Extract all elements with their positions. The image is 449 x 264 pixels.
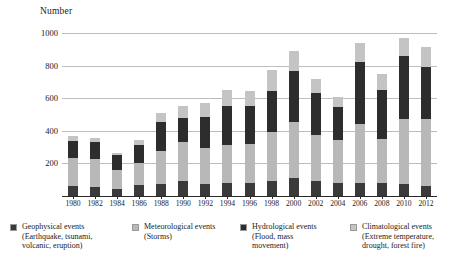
x-axis-tick-label: 1982 bbox=[87, 200, 102, 208]
bar-segment-meteorological bbox=[289, 122, 299, 178]
x-axis-tick-label: 2004 bbox=[330, 200, 345, 208]
x-axis-tick-label: 2006 bbox=[352, 200, 367, 208]
bar-segment-geophysical bbox=[112, 189, 122, 196]
x-axis-tick-label: 2008 bbox=[374, 200, 389, 208]
bar-segment-hydrological bbox=[245, 106, 255, 143]
bar-segment-meteorological bbox=[245, 144, 255, 183]
bar-stack bbox=[267, 70, 277, 196]
bar-segment-hydrological bbox=[421, 67, 431, 119]
bar-segment-climatological bbox=[245, 91, 255, 106]
x-axis-tick-label: 1990 bbox=[176, 200, 191, 208]
bar-segment-geophysical bbox=[134, 185, 144, 196]
bar-stack bbox=[421, 47, 431, 196]
legend-item[interactable]: Geophysical events (Earthquake, tsunami,… bbox=[10, 222, 128, 251]
bar-segment-geophysical bbox=[333, 183, 343, 196]
x-axis-tick-label: 1994 bbox=[220, 200, 235, 208]
bar-segment-hydrological bbox=[200, 117, 210, 149]
bar-segment-meteorological bbox=[333, 140, 343, 182]
legend-label: Hydrological events (Flood, mass movemen… bbox=[252, 222, 317, 251]
bar-segment-meteorological bbox=[178, 142, 188, 180]
x-axis-tick-label: 1980 bbox=[65, 200, 80, 208]
bar-series-container bbox=[62, 33, 437, 196]
bar-segment-geophysical bbox=[245, 183, 255, 196]
bar-segment-hydrological bbox=[178, 118, 188, 142]
bar-stack bbox=[222, 90, 232, 196]
legend-item[interactable]: Hydrological events (Flood, mass movemen… bbox=[240, 222, 346, 251]
bar-segment-meteorological bbox=[311, 135, 321, 181]
x-axis-tick-label: 2010 bbox=[396, 200, 411, 208]
bar-stack bbox=[377, 74, 387, 196]
bar-segment-meteorological bbox=[267, 132, 277, 181]
plot-area: 2004006008001000 bbox=[62, 33, 437, 196]
bar-segment-hydrological bbox=[156, 122, 166, 151]
bar-segment-climatological bbox=[289, 51, 299, 71]
bar-segment-geophysical bbox=[289, 178, 299, 196]
bar-stack bbox=[112, 153, 122, 196]
bar-segment-geophysical bbox=[200, 184, 210, 196]
legend-swatch-icon bbox=[350, 224, 357, 231]
bar-segment-climatological bbox=[399, 38, 409, 56]
bar-segment-hydrological bbox=[90, 142, 100, 158]
bar-segment-meteorological bbox=[355, 124, 365, 183]
y-axis-tick-label: 200 bbox=[45, 159, 58, 168]
bar-segment-climatological bbox=[267, 70, 277, 91]
legend-item[interactable]: Meteorological events (Storms) bbox=[132, 222, 242, 241]
bar-segment-geophysical bbox=[156, 184, 166, 196]
bar-segment-meteorological bbox=[134, 163, 144, 185]
bar-segment-meteorological bbox=[200, 148, 210, 184]
bar-segment-meteorological bbox=[377, 139, 387, 183]
bar-segment-meteorological bbox=[68, 158, 78, 187]
bar-stack bbox=[134, 140, 144, 196]
bar-segment-meteorological bbox=[112, 170, 122, 189]
bar-segment-hydrological bbox=[311, 93, 321, 135]
y-axis-tick-label: 800 bbox=[45, 61, 58, 70]
bar-stack bbox=[355, 43, 365, 196]
bar-segment-geophysical bbox=[90, 187, 100, 196]
bar-segment-geophysical bbox=[68, 186, 78, 196]
legend-swatch-icon bbox=[10, 224, 17, 231]
y-axis-tick-label: 600 bbox=[45, 94, 58, 103]
bar-segment-geophysical bbox=[421, 186, 431, 196]
bar-segment-hydrological bbox=[134, 145, 144, 163]
x-axis-tick-label: 1992 bbox=[198, 200, 213, 208]
x-axis-tick-label: 1986 bbox=[132, 200, 147, 208]
bar-segment-geophysical bbox=[355, 183, 365, 196]
bar-segment-climatological bbox=[68, 136, 78, 142]
bar-segment-climatological bbox=[421, 47, 431, 67]
stacked-bar-chart: Number 2004006008001000 1980198219841986… bbox=[0, 0, 449, 264]
x-axis-tick-label: 1996 bbox=[242, 200, 257, 208]
legend-swatch-icon bbox=[240, 224, 247, 231]
bar-segment-meteorological bbox=[90, 159, 100, 187]
legend-label: Geophysical events (Earthquake, tsunami,… bbox=[22, 222, 92, 251]
bar-segment-climatological bbox=[178, 106, 188, 118]
x-axis-tick-label: 2002 bbox=[308, 200, 323, 208]
bar-stack bbox=[333, 97, 343, 196]
bar-segment-geophysical bbox=[178, 181, 188, 196]
bar-segment-meteorological bbox=[421, 119, 431, 186]
y-axis-tick-label: 400 bbox=[45, 127, 58, 136]
bar-segment-climatological bbox=[134, 140, 144, 145]
bar-segment-climatological bbox=[112, 153, 122, 155]
bar-segment-hydrological bbox=[377, 90, 387, 140]
bar-segment-hydrological bbox=[222, 106, 232, 145]
bar-stack bbox=[178, 106, 188, 196]
bar-segment-geophysical bbox=[311, 181, 321, 196]
x-axis-tick-label: 1998 bbox=[264, 200, 279, 208]
bar-stack bbox=[289, 51, 299, 196]
bar-segment-geophysical bbox=[399, 184, 409, 196]
bar-stack bbox=[68, 136, 78, 196]
bar-segment-meteorological bbox=[399, 119, 409, 183]
bar-segment-climatological bbox=[377, 74, 387, 89]
bar-segment-climatological bbox=[333, 97, 343, 107]
legend-item[interactable]: Climatological events (Extreme temperatu… bbox=[350, 222, 449, 251]
bar-stack bbox=[200, 103, 210, 196]
bar-segment-geophysical bbox=[222, 183, 232, 196]
bar-stack bbox=[245, 91, 255, 196]
x-axis-tick-label: 1988 bbox=[154, 200, 169, 208]
bar-segment-hydrological bbox=[333, 107, 343, 140]
bar-segment-hydrological bbox=[68, 141, 78, 157]
bar-segment-climatological bbox=[222, 90, 232, 106]
x-axis-tick-label: 1984 bbox=[110, 200, 125, 208]
bar-segment-hydrological bbox=[112, 155, 122, 170]
legend-swatch-icon bbox=[132, 224, 139, 231]
